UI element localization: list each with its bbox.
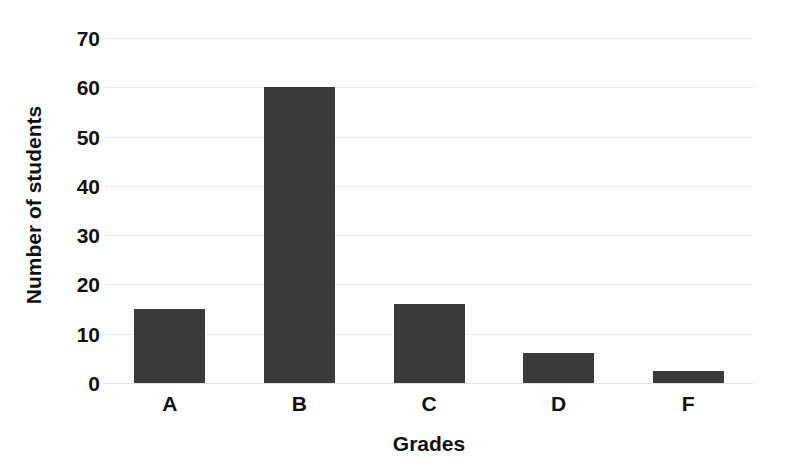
bar-d [523, 353, 594, 383]
bar-b [264, 87, 335, 383]
y-axis-tick-label: 20 [52, 274, 100, 295]
bar-c [394, 304, 465, 383]
x-axis-title: Grades [105, 432, 753, 456]
bar-f [653, 371, 724, 383]
bars [105, 38, 753, 383]
x-axis-tick-label: D [551, 391, 566, 416]
y-axis-tick-label: 60 [52, 77, 100, 98]
y-axis-tick-label: 0 [52, 373, 100, 394]
y-axis-tick-labels: 010203040506070 [52, 0, 100, 475]
axis-baseline [105, 383, 753, 384]
plot-area [105, 38, 753, 383]
y-axis-tick-label: 10 [52, 323, 100, 344]
bar-a [134, 309, 205, 383]
y-axis-tick-label: 40 [52, 175, 100, 196]
x-axis-tick-label: B [292, 391, 307, 416]
x-axis-tick-label: C [421, 391, 436, 416]
x-axis-tick-labels: ABCDF [105, 391, 753, 421]
x-axis-tick-label: A [162, 391, 177, 416]
y-axis-tick-label: 50 [52, 126, 100, 147]
y-axis-tick-label: 70 [52, 28, 100, 49]
y-axis-tick-label: 30 [52, 225, 100, 246]
y-axis-title: Number of students [14, 5, 54, 405]
x-axis-tick-label: F [682, 391, 695, 416]
bar-chart: Number of students 010203040506070 ABCDF… [0, 0, 792, 475]
